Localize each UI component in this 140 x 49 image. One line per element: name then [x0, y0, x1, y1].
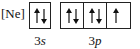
orbital-3p-1: [61, 3, 84, 28]
spin-down-arrow-icon: [41, 8, 47, 24]
orbital-3p-3: [107, 3, 130, 28]
spin-down-arrow-icon: [73, 8, 79, 24]
subshell-label-3s: 3s: [30, 34, 50, 47]
orbital-3s: [30, 3, 50, 28]
spin-up-arrow-icon: [66, 8, 72, 24]
spin-up-arrow-icon: [34, 8, 40, 24]
spin-up-arrow-icon: [113, 8, 119, 24]
spin-down-arrow-icon: [96, 8, 102, 24]
noble-gas-core-label: [Ne]: [1, 7, 25, 21]
subshell-label-3p: 3p: [85, 34, 105, 47]
subshell-3p-boxes: [60, 2, 131, 29]
spin-up-arrow-icon: [89, 8, 95, 24]
orbital-3p-2: [84, 3, 107, 28]
subshell-3s-boxes: [29, 2, 51, 29]
